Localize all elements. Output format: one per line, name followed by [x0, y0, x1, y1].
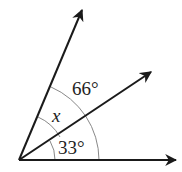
inner-arc-lower: [50, 141, 55, 160]
angle-label-x: x: [51, 105, 61, 126]
angle-label-66: 66°: [72, 78, 99, 99]
angle-diagram: 66° x 33°: [0, 0, 182, 172]
angle-label-33: 33°: [58, 137, 85, 158]
